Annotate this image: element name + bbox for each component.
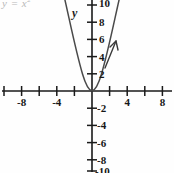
- y-axis-tick-label: 10: [99, 0, 110, 9]
- y-axis-tick-label: -4: [97, 119, 106, 131]
- y-axis-tick-label: 2: [99, 68, 105, 80]
- y-axis-tick-label: 4: [99, 51, 105, 63]
- y-axis-tick-label: -10: [95, 165, 110, 173]
- graph-screenshot: y = x2: [0, 0, 174, 173]
- y-axis-tick-label: 8: [99, 16, 105, 28]
- y-axis-tick-label: 6: [99, 33, 105, 45]
- cartesian-plot: [0, 0, 174, 173]
- y-axis-tick-label: -8: [97, 154, 106, 166]
- y-axis-tick-label: -2: [97, 102, 106, 114]
- x-axis-tick-label: -8: [17, 96, 26, 108]
- x-axis-tick-label: 8: [160, 96, 166, 108]
- x-axis-tick-label: 4: [124, 96, 130, 108]
- y-axis-label: y: [72, 6, 77, 21]
- y-axis-tick-label: -6: [97, 137, 106, 149]
- x-axis-tick-label: -4: [52, 96, 61, 108]
